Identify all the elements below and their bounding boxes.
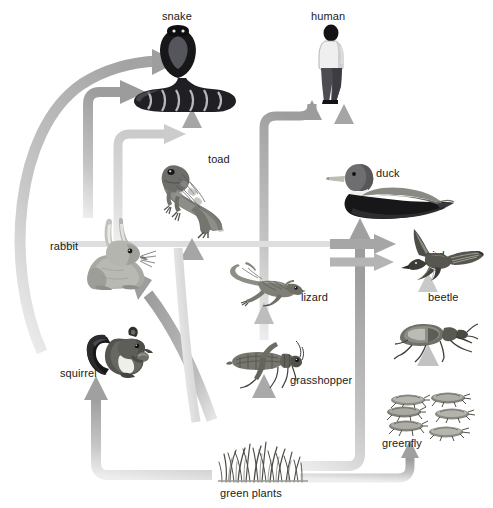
label-squirrel: squirrel: [60, 367, 97, 379]
arrow-duck-to-human: [334, 104, 354, 160]
label-grasshopper: grasshopper: [290, 374, 352, 386]
arrow-plants-to-grasshopper: [252, 374, 276, 432]
label-duck: duck: [376, 167, 400, 179]
label-lizard: lizard: [301, 291, 328, 303]
arrow-greenfly-to-beetle: [417, 344, 439, 392]
label-rabbit: rabbit: [50, 240, 78, 252]
label-bird: bird: [426, 249, 445, 261]
label-human: human: [311, 10, 345, 22]
arrow-lizard-to-snake: [118, 124, 186, 258]
arrow-plants-to-duck: [300, 218, 372, 466]
label-snake: snake: [162, 10, 192, 22]
label-beetle: beetle: [428, 291, 459, 303]
food-web-diagram: snake: [0, 0, 493, 508]
label-greenfly: greenfly: [382, 437, 422, 449]
arrow-grasshopper-to-human: [264, 100, 322, 340]
arrow-layer: [0, 0, 493, 508]
label-toad: toad: [208, 153, 230, 165]
arrow-plants-to-rabbit: [128, 268, 212, 420]
label-green-plants: green plants: [220, 487, 282, 499]
arrow-plants-to-lizard: [254, 302, 274, 340]
